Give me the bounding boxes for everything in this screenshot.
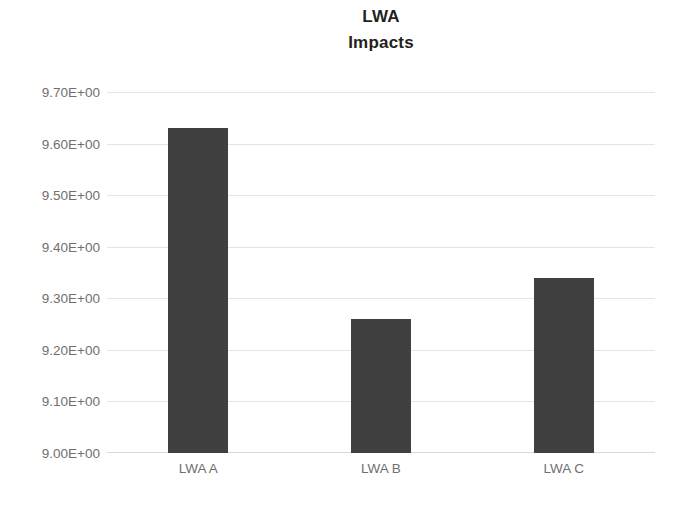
plot-area: [107, 92, 655, 453]
chart-title-line-2: Impacts: [107, 34, 655, 51]
y-axis-tick-label: 9.00E+00: [8, 446, 100, 461]
y-axis-tick-label: 9.50E+00: [8, 188, 100, 203]
x-axis-tick-label: LWA A: [179, 461, 218, 476]
bar-lwa-a: [168, 128, 228, 453]
y-axis-tick-label: 9.70E+00: [8, 85, 100, 100]
bar-lwa-c: [534, 278, 594, 453]
y-axis: 9.70E+009.60E+009.50E+009.40E+009.30E+00…: [0, 92, 100, 453]
y-axis-tick-label: 9.60E+00: [8, 136, 100, 151]
gridline: [107, 92, 655, 93]
bar-chart: LWA Impacts 9.70E+009.60E+009.50E+009.40…: [0, 0, 675, 506]
x-axis-tick-label: LWA C: [543, 461, 584, 476]
y-axis-tick-label: 9.30E+00: [8, 291, 100, 306]
chart-title-line-1: LWA: [107, 8, 655, 25]
x-axis-tick-label: LWA B: [361, 461, 401, 476]
y-axis-tick-label: 9.40E+00: [8, 239, 100, 254]
y-axis-tick-label: 9.10E+00: [8, 394, 100, 409]
bar-lwa-b: [351, 319, 411, 453]
chart-title: LWA Impacts: [107, 8, 655, 51]
y-axis-tick-label: 9.20E+00: [8, 342, 100, 357]
x-axis: LWA ALWA BLWA C: [107, 461, 655, 485]
